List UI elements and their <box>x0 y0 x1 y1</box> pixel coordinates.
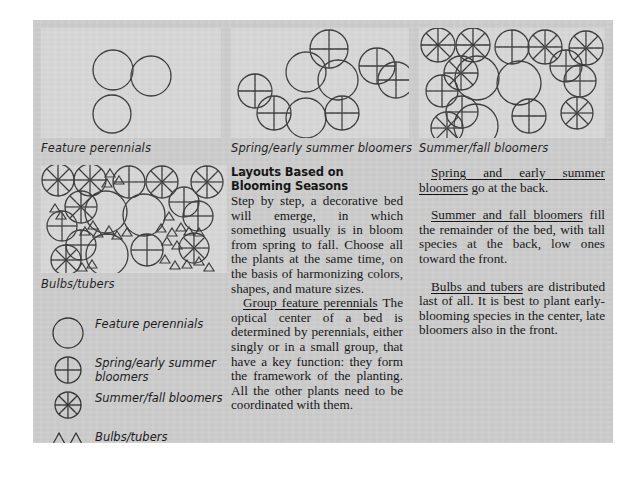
figure-panel-summer-fall <box>419 28 605 138</box>
legend-label-feature-perennials: Feature perennials <box>95 315 203 332</box>
section-heading: Layouts Based on Blooming Seasons <box>231 166 403 193</box>
summer-fall-diagram <box>419 28 605 138</box>
right-text-column: Spring and early summer bloomers go at t… <box>419 166 605 338</box>
right-paragraph-2: Summer and fall bloomers fill the remain… <box>419 208 605 266</box>
lead-in-summer-and-fall-bloomers: Summer and fall bloomers <box>431 207 583 222</box>
spring-early-summer-diagram <box>231 28 409 138</box>
figure-panel-bulbs-tubers <box>41 165 227 273</box>
cross-circle-icon <box>41 354 95 385</box>
middle-paragraph-2-body: The optical center of a bed is determine… <box>231 295 403 412</box>
lead-in-bulbs-and-tubers: Bulbs and tubers <box>431 279 523 294</box>
plain-circle-icon <box>41 315 95 350</box>
legend: Feature perennials Spring/early summer b… <box>41 315 231 443</box>
caption-bulbs-tubers: Bulbs/tubers <box>41 277 115 291</box>
caption-feature-perennials: Feature perennials <box>41 141 151 155</box>
caption-spring-early-summer: Spring/early summer bloomers <box>231 141 412 155</box>
legend-label-bulbs-tubers: Bulbs/tubers <box>95 430 167 443</box>
legend-item-spring-early-summer: Spring/early summer bloomers <box>41 354 231 385</box>
caption-summer-fall: Summer/fall bloomers <box>419 141 548 155</box>
legend-item-feature-perennials: Feature perennials <box>41 315 231 350</box>
figure-panel-spring-early-summer <box>231 28 409 138</box>
feature-perennials-diagram <box>41 28 221 138</box>
right-paragraph-1-body: go at the back. <box>468 180 548 195</box>
middle-text-column: Layouts Based on Blooming Seasons Step b… <box>231 166 403 413</box>
middle-paragraph-1: Step by step, a decorative bed will emer… <box>231 194 403 296</box>
middle-paragraph-2: Group feature perennials The optical cen… <box>231 296 403 413</box>
spoke-circle-icon <box>41 389 95 420</box>
legend-item-bulbs-tubers: Bulbs/tubers <box>41 430 231 443</box>
figure-panel-feature-perennials <box>41 28 221 138</box>
legend-label-summer-fall: Summer/fall bloomers <box>95 389 222 406</box>
right-paragraph-3: Bulbs and tubers are distributed last of… <box>419 280 605 338</box>
bulbs-tubers-diagram <box>41 165 227 273</box>
lead-in-group-feature-perennials: Group feature perennials <box>243 295 378 310</box>
legend-item-summer-fall: Summer/fall bloomers <box>41 389 231 420</box>
triangle-pair-icon <box>41 430 95 443</box>
right-paragraph-1: Spring and early summer bloomers go at t… <box>419 166 605 195</box>
legend-label-spring-early-summer: Spring/early summer bloomers <box>95 354 216 384</box>
book-page: Feature perennials <box>33 20 613 443</box>
